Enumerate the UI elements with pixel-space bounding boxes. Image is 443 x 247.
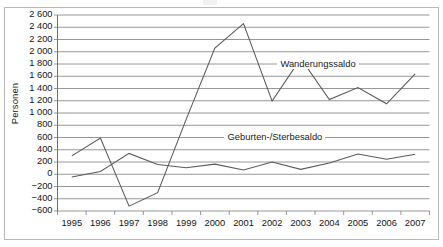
series-line-geburten-sterbesaldo	[72, 153, 415, 177]
series-label-geburten-sterbesaldo: Geburten-/Sterbesaldo	[224, 131, 325, 142]
y-tick-label: 800	[11, 119, 53, 129]
y-tick-label: 2 400	[11, 21, 53, 31]
y-tick-label: 400	[11, 144, 53, 154]
y-tick-label: 0	[11, 168, 53, 178]
y-tick-label: −600	[11, 205, 53, 215]
chart-figure: Personen 2 6002 4002 2002 0001 8001 6001…	[0, 0, 443, 247]
y-tick-label: 2 200	[11, 34, 53, 44]
y-tick-label: 1 600	[11, 70, 53, 80]
y-tick-label: 2 000	[11, 46, 53, 56]
series-label-wanderungssaldo: Wanderungssaldo	[277, 58, 358, 69]
y-tick-label: 1 200	[11, 95, 53, 105]
x-tick-label: 2007	[395, 218, 435, 228]
y-tick-label: 2 600	[11, 9, 53, 19]
y-tick-label: −400	[11, 193, 53, 203]
y-tick-label: −200	[11, 181, 53, 191]
y-tick-label: 600	[11, 132, 53, 142]
series-line-wanderungssaldo	[72, 24, 415, 207]
y-tick-label: 1 400	[11, 83, 53, 93]
plot-area	[0, 0, 443, 247]
y-tick-label: 1 000	[11, 107, 53, 117]
y-tick-label: 200	[11, 156, 53, 166]
y-tick-label: 1 800	[11, 58, 53, 68]
